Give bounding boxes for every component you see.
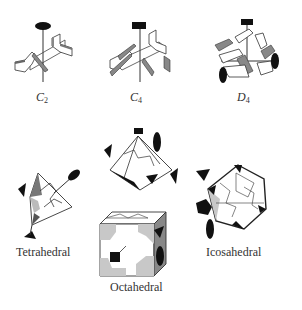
octahedral-label: Octahedral — [110, 280, 163, 295]
octahedral-cube-diagram — [98, 210, 170, 278]
twofold-axis-symbol-icon — [18, 183, 26, 197]
fourfold-axis-symbol-icon — [241, 19, 253, 25]
twofold-axis-symbol-icon — [153, 132, 161, 152]
twofold-axis-symbol-icon — [271, 53, 279, 69]
threefold-axis-symbol-icon — [104, 144, 112, 158]
icosahedral-diagram — [196, 163, 276, 243]
c2-label: C2 — [36, 90, 48, 105]
d4-diagram — [205, 15, 285, 90]
fourfold-axis-symbol-icon — [132, 22, 146, 29]
c2-diagram — [10, 20, 80, 85]
twofold-axis-symbol-icon — [206, 219, 214, 239]
twofold-axis-symbol-icon — [35, 22, 51, 30]
d4-label: D4 — [237, 90, 250, 105]
icosahedral-label: Icosahedral — [206, 245, 261, 260]
fourfold-axis-symbol-icon — [134, 128, 143, 134]
fourfold-axis-symbol-icon — [156, 246, 164, 266]
tetrahedral-diagram — [10, 165, 80, 240]
c4-label: C4 — [130, 90, 142, 105]
twofold-axis-symbol-icon — [219, 67, 227, 83]
tetrahedral-label: Tetrahedral — [16, 245, 70, 260]
fivefold-axis-symbol-icon — [196, 199, 212, 215]
c4-diagram — [104, 20, 174, 85]
octahedral-octahedron-diagram — [100, 128, 180, 200]
threefold-axis-symbol-icon — [196, 169, 210, 181]
